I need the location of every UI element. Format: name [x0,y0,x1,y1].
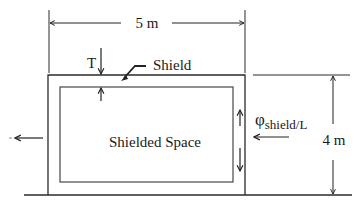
thickness-label: T [87,55,96,71]
shield-leader-line [124,66,146,78]
height-label: 4 m [323,132,346,148]
shielded-space-label: Shielded Space [109,134,201,150]
flux-label: φshield/L [255,110,307,132]
flux-subscript: shield/L [265,117,308,132]
shield-label: Shield [153,57,192,73]
flux-symbol: φ [255,110,265,129]
width-label: 5 m [136,15,159,31]
shield-diagram: 5 m T Shield Shielded Space φshield/L 4 … [0,0,359,205]
